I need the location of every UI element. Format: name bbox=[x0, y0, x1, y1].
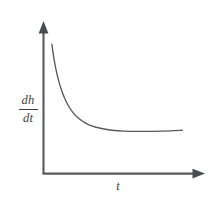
y-axis-label: dh dt bbox=[14, 94, 42, 125]
dh-dt-decay-curve bbox=[52, 44, 182, 131]
y-axis-arrowhead-icon bbox=[39, 21, 49, 34]
y-axis-label-numerator: dh bbox=[14, 94, 42, 108]
x-axis-label: t bbox=[108, 180, 128, 193]
figure-container: dh dt t bbox=[0, 0, 211, 200]
x-axis-arrowhead-icon bbox=[193, 169, 206, 179]
y-axis-label-denominator: dt bbox=[14, 111, 42, 125]
fraction-bar bbox=[19, 109, 38, 110]
